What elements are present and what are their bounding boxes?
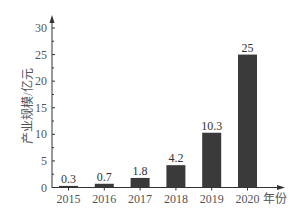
y-axis-arrow-icon — [50, 15, 55, 23]
y-tick-label: 0 — [41, 181, 47, 195]
x-tick-label: 2016 — [92, 192, 116, 206]
y-tick-label: 5 — [41, 154, 47, 168]
y-tick-label: 10 — [35, 127, 47, 141]
x-axis-tick-labels: 201520162017201820192020 — [57, 188, 260, 207]
bar-2020 — [238, 55, 257, 188]
bars: 0.30.71.84.210.325 — [59, 41, 257, 188]
bar-value-label: 4.2 — [168, 151, 183, 165]
bar-value-label: 0.3 — [61, 172, 76, 186]
y-tick-label: 20 — [35, 74, 47, 88]
bar-value-label: 25 — [242, 41, 254, 55]
y-tick-label: 30 — [35, 21, 47, 35]
x-axis-title: 年份 — [263, 192, 287, 206]
y-tick-label: 15 — [35, 101, 47, 115]
x-tick-label: 2018 — [164, 192, 188, 206]
bar-chart: 051015202530 0.30.71.84.210.325 20152016… — [0, 0, 300, 217]
bar-2018 — [166, 165, 185, 187]
bar-value-label: 10.3 — [201, 119, 222, 133]
x-tick-label: 2019 — [200, 192, 224, 206]
bar-2017 — [131, 178, 150, 188]
x-tick-label: 2017 — [128, 192, 152, 206]
bar-2019 — [202, 133, 221, 188]
x-tick-label: 2020 — [236, 192, 260, 206]
y-tick-label: 25 — [35, 48, 47, 62]
x-tick-label: 2015 — [57, 192, 81, 206]
bar-2016 — [95, 184, 114, 188]
x-axis-arrow-icon — [277, 185, 285, 190]
bar-value-label: 0.7 — [97, 170, 112, 184]
y-axis-title: 产业规模/亿元 — [20, 68, 35, 143]
bar-value-label: 1.8 — [133, 164, 148, 178]
